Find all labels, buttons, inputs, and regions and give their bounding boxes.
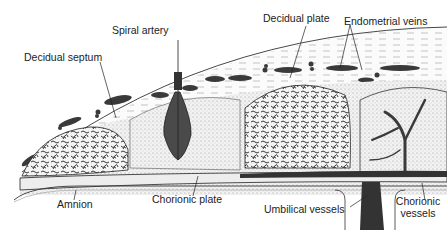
- label-chorionic-vessels-line1: Chorionic: [393, 195, 443, 207]
- label-chorionic-vessels: Chorionic vessels: [393, 195, 443, 219]
- label-decidual-septum: Decidual septum: [24, 51, 102, 63]
- cotyledon-middle: [245, 85, 350, 168]
- label-decidual-plate: Decidual plate: [263, 12, 330, 24]
- label-amnion: Amnion: [57, 198, 93, 210]
- diagram-artwork: [0, 0, 447, 230]
- cotyledon-left: [22, 127, 128, 176]
- label-endometrial-veins: Endometrial veins: [344, 15, 427, 27]
- label-umbilical-vessels: Umbilical vessels: [264, 203, 345, 215]
- placenta-cross-section-diagram: Spiral artery Decidual septum Decidual p…: [0, 0, 447, 230]
- label-chorionic-plate: Chorionic plate: [152, 193, 222, 205]
- label-chorionic-vessels-line2: vessels: [393, 207, 443, 219]
- label-spiral-artery: Spiral artery: [112, 24, 169, 36]
- umbilical-vessels: [360, 182, 384, 230]
